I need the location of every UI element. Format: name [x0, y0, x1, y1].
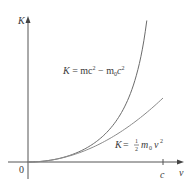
eq-text: = mc	[70, 65, 93, 76]
x-axis-label: v	[179, 167, 184, 178]
eq-m: m	[141, 139, 148, 150]
classical-curve	[28, 98, 163, 162]
c-tick-label: c	[160, 169, 165, 180]
x-axis-arrow-icon	[177, 160, 184, 165]
chart: K v 0 c K = mc2 − m0c2 K = 1 2 m 0 v 2	[0, 0, 194, 187]
y-axis-arrow-icon	[26, 16, 31, 23]
eq-sup: 2	[160, 138, 163, 144]
y-axis-label: K	[17, 15, 26, 26]
relativistic-equation-label: K = mc2 − m0c2	[62, 65, 124, 77]
eq-sup: 2	[121, 65, 124, 71]
relativistic-curve	[28, 21, 147, 162]
classical-equation-label: K = 1 2 m 0 v 2	[114, 138, 163, 152]
eq-sub: 0	[149, 145, 152, 151]
eq-K: K	[114, 139, 123, 150]
eq-text: =	[123, 139, 129, 150]
eq-text: − m	[96, 65, 115, 76]
origin-label: 0	[19, 164, 24, 175]
fraction-numerator: 1	[135, 138, 138, 144]
axes	[8, 20, 180, 179]
eq-v: v	[154, 139, 159, 150]
fraction-denominator: 2	[135, 146, 138, 152]
